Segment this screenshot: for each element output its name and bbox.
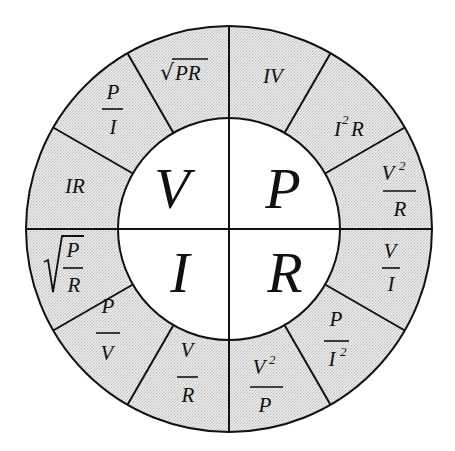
numerator: V (253, 355, 268, 379)
sqrt-icon: √ (160, 60, 175, 85)
denominator: R (67, 273, 81, 297)
radicand: PR (174, 61, 201, 85)
numerator: P (329, 307, 343, 331)
numerator: P (106, 80, 120, 104)
denominator: R (393, 197, 407, 221)
numerator: V (181, 338, 196, 362)
center-symbol-resistance: R (266, 240, 302, 305)
denominator: P (258, 393, 272, 417)
center-symbol-current: I (169, 240, 192, 305)
exponent: 2 (399, 158, 406, 173)
numerator: P (66, 238, 80, 262)
numerator: V (382, 161, 397, 185)
tail: R (350, 117, 364, 141)
numerator: P (101, 294, 115, 318)
denominator: V (101, 341, 116, 365)
formula-IV: IV (262, 64, 285, 88)
exponent: 2 (269, 352, 276, 367)
center-symbol-power: P (264, 156, 300, 221)
ohms-law-wheel: V P I R IR P I √ PR IV I 2 R V 2 R V I P (0, 0, 455, 451)
denominator: I (328, 347, 337, 371)
denominator: I (109, 115, 118, 139)
denominator: I (387, 272, 396, 296)
formula-IR: IR (64, 174, 85, 198)
exponent: 2 (340, 344, 347, 359)
exponent: 2 (342, 112, 349, 127)
numerator: V (384, 239, 399, 263)
denominator: R (181, 383, 195, 407)
base: I (333, 117, 342, 141)
